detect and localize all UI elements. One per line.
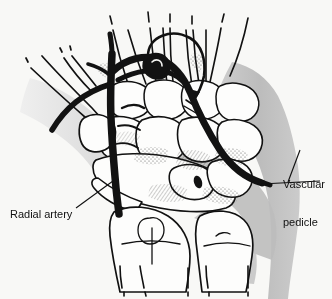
label-radial-artery: Radial artery bbox=[10, 208, 72, 221]
label-vascular-pedicle: Vascular pedicle bbox=[283, 153, 325, 253]
label-vascular-pedicle-line2: pedicle bbox=[283, 216, 325, 229]
label-vascular-pedicle-line1: Vascular bbox=[283, 178, 325, 191]
wrist-illustration-svg bbox=[0, 0, 332, 299]
anatomical-illustration: Radial artery Vascular pedicle bbox=[0, 0, 332, 299]
